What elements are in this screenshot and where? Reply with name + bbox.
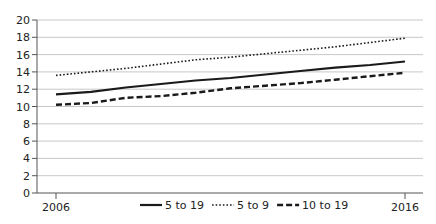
- legend-label: 5 to 9: [237, 199, 269, 212]
- y-tick-label: 10: [16, 101, 30, 114]
- x-axis: 20062016: [37, 193, 423, 214]
- y-tick-label: 4: [23, 152, 30, 165]
- y-tick-label: 6: [23, 135, 30, 148]
- series-5-to-9: [56, 38, 405, 75]
- y-tick-label: 0: [23, 187, 30, 200]
- legend: 5 to 195 to 910 to 19: [140, 199, 348, 212]
- x-tick-label: 2016: [391, 201, 419, 214]
- line-chart: 02468101214161820 20062016 5 to 195 to 9…: [0, 0, 436, 224]
- x-tick-label: 2006: [42, 201, 70, 214]
- y-tick-label: 8: [23, 118, 30, 131]
- legend-label: 10 to 19: [302, 199, 348, 212]
- legend-item: 5 to 19: [140, 199, 204, 212]
- y-axis: 02468101214161820: [16, 14, 37, 200]
- legend-item: 5 to 9: [212, 199, 269, 212]
- y-tick-label: 14: [16, 66, 30, 79]
- y-tick-label: 2: [23, 170, 30, 183]
- y-tick-label: 20: [16, 14, 30, 27]
- y-tick-label: 12: [16, 83, 30, 96]
- y-tick-label: 16: [16, 49, 30, 62]
- legend-label: 5 to 19: [165, 199, 204, 212]
- legend-item: 10 to 19: [277, 199, 348, 212]
- y-tick-label: 18: [16, 31, 30, 44]
